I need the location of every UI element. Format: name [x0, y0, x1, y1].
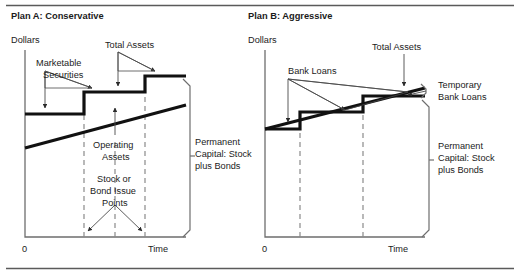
- figure-container: Plan A: Conservative Dollars Marketable …: [0, 0, 520, 279]
- plan-b-x-axis-label: Time: [388, 244, 408, 254]
- plan-b-bank-loans-label: Bank Loans: [288, 66, 337, 76]
- plan-b-temporary-bank-loans-label-line2: Bank Loans: [438, 92, 487, 102]
- plan-a-marketable-securities-label-line1: Marketable: [36, 58, 81, 68]
- plan-a-issue-points-label-line2: Bond Issue: [90, 186, 136, 196]
- plan-a-title: Plan A: Conservative: [11, 11, 104, 21]
- plan-b-temporary-bank-loans-label-line1: Temporary: [438, 80, 482, 90]
- plan-b-y-axis-label: Dollars: [248, 35, 277, 45]
- plan-a-operating-assets-label-line1: Operating: [93, 140, 133, 150]
- plan-a-permanent-capital-bracket: [183, 79, 190, 237]
- plan-a-permanent-capital-label-line1: Permanent: [195, 137, 240, 147]
- plan-b-axes: [265, 50, 425, 237]
- plan-a-operating-assets-label-line2: Assets: [102, 152, 130, 162]
- plan-a-marketable-securities-label-line2: Securities: [43, 70, 84, 80]
- plan-a-total-assets-step: [25, 76, 186, 114]
- plan-a-y-axis-label: Dollars: [11, 35, 40, 45]
- plan-a-total-assets-label: Total Assets: [105, 40, 154, 50]
- plan-a-issue-points-label-line3: Points: [102, 198, 128, 208]
- plan-b-total-assets-label: Total Assets: [372, 42, 421, 52]
- plan-b-title: Plan B: Aggressive: [248, 11, 332, 21]
- plan-b-permanent-capital-label-line2: Capital: Stock: [438, 153, 495, 163]
- plan-a-permanent-capital-label-line2: Capital: Stock: [195, 149, 252, 159]
- plan-a-ta-leader-wedge: [118, 52, 155, 71]
- plan-a-origin-label: 0: [22, 244, 27, 254]
- plan-b-permanent-capital-label-line1: Permanent: [438, 141, 483, 151]
- plan-b-origin-label: 0: [262, 244, 267, 254]
- figure-canvas: Plan A: Conservative Dollars Marketable …: [0, 0, 520, 279]
- plan-b-permanent-capital-label-line3: plus Bonds: [438, 165, 484, 175]
- plan-a-permanent-capital-label-line3: plus Bonds: [195, 161, 241, 171]
- plan-b-permanent-capital-bracket: [422, 100, 429, 237]
- panel-plan-b: [265, 50, 434, 237]
- plan-a-x-axis-label: Time: [148, 244, 168, 254]
- plan-a-issue-point-leader-right: [115, 205, 142, 231]
- plan-a-issue-point-leader-left: [88, 205, 115, 231]
- plan-a-issue-points-label-line1: Stock or: [97, 174, 131, 184]
